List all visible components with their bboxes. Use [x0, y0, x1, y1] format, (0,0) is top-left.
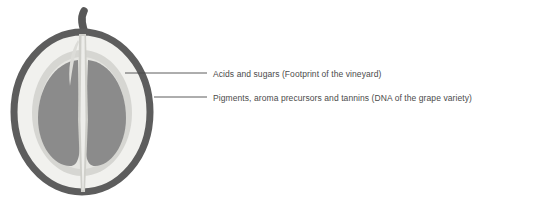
callout-label-pigments: Pigments, aroma precursors and tannins (… [213, 94, 472, 103]
callout-label-acids: Acids and sugars (Footprint of the viney… [213, 70, 381, 79]
